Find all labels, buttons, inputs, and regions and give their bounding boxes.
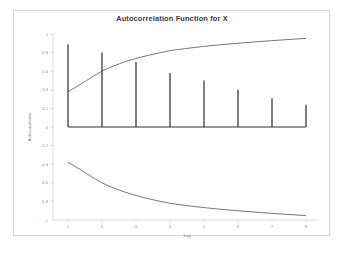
acf-spikes: [68, 44, 306, 127]
y-axis-title: Autocorrelation: [27, 112, 32, 142]
y-tick-label: 0: [46, 125, 49, 130]
x-tick-label: 5: [203, 224, 206, 229]
lower-confidence-band: [68, 162, 306, 215]
y-tick-label: -1: [44, 218, 48, 223]
y-tick-label: -0.6: [41, 180, 49, 185]
x-tick-label: 8: [305, 224, 308, 229]
upper-confidence-band: [68, 38, 306, 91]
x-axis-title: Lag: [183, 233, 191, 238]
chart-figure: Autocorrelation Function for X 1 0.8 0.6…: [0, 0, 344, 255]
x-axis-ticks: 1 2 3 4 5 6 7: [67, 220, 308, 229]
y-tick-label: 0.2: [42, 106, 48, 111]
x-tick-label: 4: [169, 224, 172, 229]
y-tick-label: -0.4: [41, 162, 49, 167]
x-tick-label: 3: [135, 224, 138, 229]
autocorrelation-plot: 1 0.8 0.6 0.4 0.2 0: [0, 0, 344, 255]
x-tick-label: 6: [237, 224, 240, 229]
y-tick-label: -0.2: [41, 143, 49, 148]
y-axis-ticks: 1 0.8 0.6 0.4 0.2 0: [41, 32, 53, 223]
x-tick-label: 1: [67, 224, 70, 229]
y-tick-label: 0.8: [42, 50, 48, 55]
x-tick-label: 2: [101, 224, 104, 229]
y-tick-label: -0.8: [41, 199, 49, 204]
y-tick-label: 0.6: [42, 69, 48, 74]
x-tick-label: 7: [271, 224, 274, 229]
y-tick-label: 1: [46, 32, 49, 37]
y-tick-label: 0.4: [42, 87, 48, 92]
